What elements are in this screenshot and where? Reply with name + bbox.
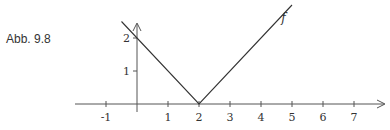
x-tick-label: -1 — [101, 111, 112, 124]
y-tick-label: 1 — [123, 65, 130, 78]
function-label-f: f — [280, 11, 288, 25]
x-tick-label: 3 — [227, 111, 234, 124]
plot-area: -11234567 12 f — [0, 0, 390, 130]
y-ticks: 12 — [123, 32, 137, 78]
x-tick-label: 5 — [289, 111, 296, 124]
x-tick-label: 4 — [258, 111, 265, 124]
function-line-f — [122, 5, 293, 104]
x-tick-label: 7 — [351, 111, 358, 124]
y-tick-label: 2 — [123, 32, 130, 45]
x-tick-label: 6 — [320, 111, 327, 124]
x-tick-label: 2 — [196, 111, 203, 124]
x-tick-label: 1 — [165, 111, 172, 124]
y-axis — [133, 23, 141, 112]
